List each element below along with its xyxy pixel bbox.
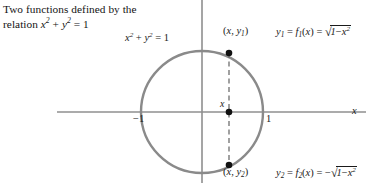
x-tick-negative-one: −1	[133, 113, 144, 124]
x-axis-label: x	[352, 105, 357, 116]
function-2-label: y2 = f2(x) = −√1−x2	[276, 166, 357, 178]
axis-point-dot	[226, 109, 233, 116]
upper-point-label: (x, y1)	[223, 25, 248, 36]
figure-page: Two functions defined by the relation x2…	[0, 0, 369, 183]
circle-equation-label: x2 + y2 = 1	[125, 32, 169, 43]
function-1-label: y1 = f1(x) = √1−x2	[276, 25, 351, 37]
upper-point-dot	[226, 50, 233, 57]
x-tick-one: 1	[266, 113, 271, 124]
lower-point-label: (x, y2)	[223, 166, 248, 177]
axis-point-label: x	[220, 98, 224, 109]
